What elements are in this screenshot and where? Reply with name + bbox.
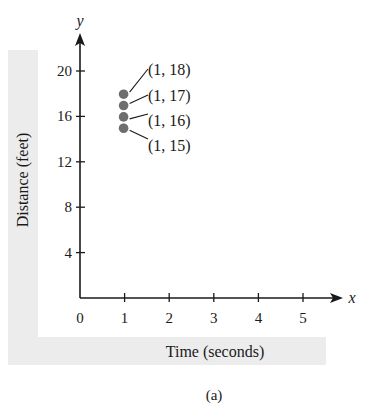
y-tick-label: 16 <box>57 108 73 124</box>
point-label: (1, 18) <box>148 61 191 79</box>
data-point <box>119 112 129 122</box>
data-point <box>119 89 129 99</box>
leader-line <box>130 130 148 139</box>
x-tick-label: 2 <box>165 310 173 326</box>
x-tick-label: 5 <box>299 310 307 326</box>
point-label: (1, 15) <box>148 137 191 155</box>
x-tick-label: 1 <box>121 310 129 326</box>
y-tick-label: 8 <box>65 199 73 215</box>
x-tick-label: 4 <box>255 310 263 326</box>
leader-line <box>130 95 148 104</box>
leader-line <box>130 114 148 119</box>
x-axis-title: Time (seconds) <box>166 343 265 361</box>
y-axis-letter: y <box>74 12 84 30</box>
data-point <box>119 101 129 111</box>
leader-line <box>130 69 148 92</box>
y-tick-label: 4 <box>65 245 73 261</box>
y-tick-label: 12 <box>57 154 72 170</box>
y-axis-title: Distance (feet) <box>14 133 32 228</box>
point-label: (1, 16) <box>148 112 191 130</box>
point-label: (1, 17) <box>148 87 191 105</box>
x-axis-letter: x <box>347 289 355 306</box>
y-tick-label: 20 <box>57 63 72 79</box>
x-tick-label: 3 <box>210 310 218 326</box>
figure-caption: (a) <box>206 387 223 404</box>
data-point <box>119 123 129 133</box>
x-tick-label: 0 <box>76 310 84 326</box>
